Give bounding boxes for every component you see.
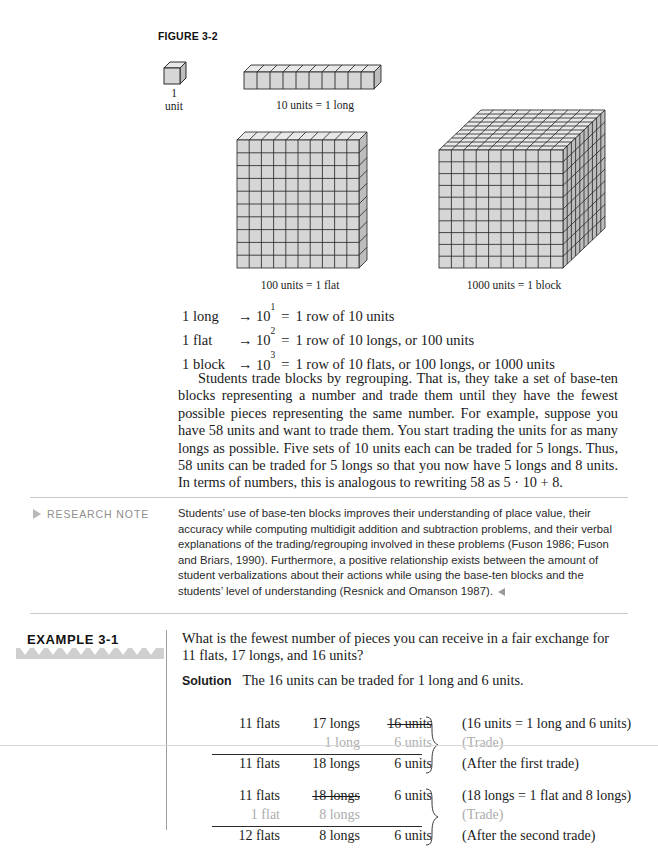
equation-power: 102 <box>256 326 275 350</box>
trade-longs: 8 longs <box>280 828 360 844</box>
trade-sum-line-second <box>212 826 422 827</box>
equals-sign: = <box>281 306 289 327</box>
trade-units: 16 units <box>360 716 432 732</box>
body-paragraph: Students trade blocks by regrouping. Tha… <box>178 370 618 492</box>
arrow-icon: → <box>238 306 256 327</box>
trade-note: (18 longs = 1 flat and 8 longs) <box>462 788 631 804</box>
triangle-left-icon <box>498 588 505 596</box>
block-illustration <box>436 106 610 276</box>
equation-list: 1 long → 101 = 1 row of 10 units 1 flat … <box>182 302 555 375</box>
example-heading: EXAMPLE 3-1 <box>27 632 119 647</box>
trade-units: 6 units <box>360 756 432 772</box>
trade-row: 11 flats 17 longs 16 units (16 units = 1… <box>210 716 631 735</box>
unit-caption-line1: 1 <box>150 87 198 100</box>
unit-caption-line2: unit <box>150 100 198 113</box>
flat-illustration <box>234 128 374 274</box>
equation-text: 1 row of 10 longs, or 100 units <box>295 330 474 351</box>
long-illustration <box>242 60 388 94</box>
divider-above-research-note <box>30 497 628 498</box>
trade-longs: 8 longs <box>280 807 360 823</box>
example-vertical-divider <box>166 630 167 830</box>
trade-units: 6 units <box>360 788 432 804</box>
trade-note: (Trade) <box>462 807 503 823</box>
unit-caption: 1 unit <box>150 87 198 112</box>
trade-flats: 11 flats <box>210 788 280 804</box>
equation-row: 1 flat → 102 = 1 row of 10 longs, or 100… <box>182 326 555 350</box>
trade-flats: 12 flats <box>210 828 280 844</box>
trade-units: 6 units <box>360 735 432 751</box>
example-zigzag-decoration <box>16 648 164 659</box>
brace-second-trade <box>424 788 440 846</box>
equals-sign: = <box>281 330 289 351</box>
trade-table-second: 11 flats 18 longs 6 units (18 longs = 1 … <box>210 788 631 847</box>
equation-text: 1 row of 10 units <box>295 306 394 327</box>
example-solution-line: SolutionThe 16 units can be traded for 1… <box>182 672 524 689</box>
flat-caption: 100 units = 1 flat <box>232 279 368 291</box>
research-note-body: Students’ use of base-ten blocks improve… <box>178 506 626 600</box>
equation-power: 101 <box>256 302 275 326</box>
trade-note: (After the first trade) <box>462 756 579 772</box>
trade-longs: 1 long <box>280 735 360 751</box>
trade-note: (Trade) <box>462 735 503 751</box>
research-note-label: RESEARCH NOTE <box>47 508 149 520</box>
equation-name: 1 long <box>182 306 238 327</box>
unit-cube-illustration <box>160 58 190 88</box>
scan-artifact-line <box>0 745 658 746</box>
solution-label: Solution <box>182 674 232 688</box>
block-caption: 1000 units = 1 block <box>432 279 596 291</box>
figure-label: FIGURE 3-2 <box>158 30 218 42</box>
long-caption: 10 units = 1 long <box>240 99 390 111</box>
trade-row: 12 flats 8 longs 6 units (After the seco… <box>210 828 631 847</box>
trade-flats: 11 flats <box>210 716 280 732</box>
equation-row: 1 long → 101 = 1 row of 10 units <box>182 302 555 326</box>
trade-longs: 18 longs <box>280 788 360 804</box>
solution-text: The 16 units can be traded for 1 long an… <box>243 672 524 688</box>
textbook-page: FIGURE 3-2 1 unit <box>0 0 658 861</box>
triangle-right-icon <box>33 509 41 519</box>
trade-flats: 11 flats <box>210 756 280 772</box>
trade-note: (After the second trade) <box>462 828 595 844</box>
trade-units: 6 units <box>360 828 432 844</box>
trade-sum-line-first <box>212 754 422 755</box>
trade-longs: 17 longs <box>280 716 360 732</box>
research-note-text: Students’ use of base-ten blocks improve… <box>178 507 612 597</box>
trade-row: 1 flat 8 longs (Trade) <box>210 807 631 826</box>
example-question: What is the fewest number of pieces you … <box>182 630 622 665</box>
equation-name: 1 flat <box>182 330 238 351</box>
trade-row: 11 flats 18 longs 6 units (18 longs = 1 … <box>210 788 631 807</box>
divider-below-research-note <box>30 613 628 614</box>
arrow-icon: → <box>238 330 256 351</box>
trade-note: (16 units = 1 long and 6 units) <box>462 716 631 732</box>
research-note-heading: RESEARCH NOTE <box>33 508 149 520</box>
trade-flats: 1 flat <box>210 807 280 823</box>
trade-row: 11 flats 18 longs 6 units (After the fir… <box>210 756 631 775</box>
trade-longs: 18 longs <box>280 756 360 772</box>
